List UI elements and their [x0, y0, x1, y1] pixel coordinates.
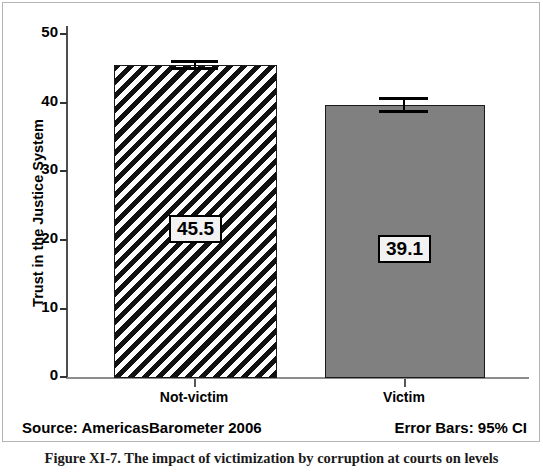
- y-tick-label-20: 20: [2, 229, 58, 246]
- y-tick-label-10: 10: [2, 298, 58, 315]
- value-label-not-victim: 45.5: [169, 215, 222, 243]
- x-tick-mark-victim: [404, 379, 406, 387]
- y-tick-label-0: 0: [2, 366, 58, 383]
- source-note: Source: AmericasBarometer 2006: [22, 419, 262, 436]
- y-tick-label-50: 50: [2, 23, 58, 40]
- x-tick-mark-not-victim: [194, 379, 196, 387]
- y-tick-mark-40: [60, 102, 67, 104]
- y-tick-label-40: 40: [2, 92, 58, 109]
- y-tick-mark-10: [60, 308, 67, 310]
- x-axis-label-victim: Victim: [334, 389, 474, 405]
- value-label-victim: 39.1: [378, 235, 431, 263]
- figure-caption: Figure XI-7. The impact of victimization…: [0, 450, 543, 467]
- x-axis-label-not-victim: Not-victim: [124, 389, 264, 405]
- error-bars-note: Error Bars: 95% CI: [394, 419, 527, 436]
- error-bar-cap-lower-victim: [379, 110, 428, 113]
- chart-plot-area: Trust in the Justice System 50 40 30 20 …: [0, 0, 543, 443]
- y-tick-mark-50: [60, 33, 67, 35]
- y-tick-mark-30: [60, 170, 67, 172]
- y-axis-line: [66, 26, 68, 378]
- y-tick-mark-20: [60, 239, 67, 241]
- y-tick-label-30: 30: [2, 160, 58, 177]
- error-bar-cap-upper-victim: [379, 97, 428, 100]
- error-bar-cap-lower-not-victim: [171, 67, 218, 70]
- error-bar-cap-upper-not-victim: [171, 60, 218, 63]
- y-tick-mark-0: [60, 376, 67, 378]
